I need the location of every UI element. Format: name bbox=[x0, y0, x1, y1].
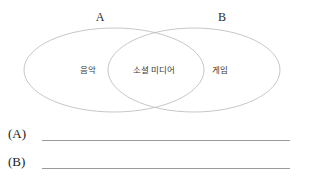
set-b-label: B bbox=[212, 11, 232, 23]
answer-line-b[interactable] bbox=[42, 168, 290, 169]
venn-diagram-svg bbox=[0, 0, 312, 118]
answer-tag-b: (B) bbox=[8, 154, 38, 172]
answer-tag-a: (A) bbox=[8, 126, 38, 144]
answer-row: (A) bbox=[8, 118, 304, 144]
answer-row: (B) bbox=[8, 146, 304, 172]
intersection-region-label: 소셜 미디어 bbox=[120, 65, 188, 75]
answer-line-a[interactable] bbox=[42, 140, 290, 141]
venn-diagram: A B 음악 소셜 미디어 게임 bbox=[0, 0, 312, 118]
set-a-region-label: 음악 bbox=[54, 65, 122, 75]
set-b-region-label: 게임 bbox=[186, 65, 254, 75]
set-a-label: A bbox=[90, 11, 110, 23]
